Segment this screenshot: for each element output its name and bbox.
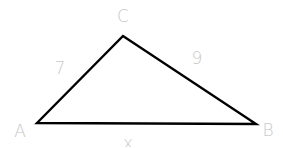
vertex-label-a: A <box>14 123 26 140</box>
triangle-outline <box>37 36 256 124</box>
side-label-cb: 9 <box>192 50 203 67</box>
side-label-ac: 7 <box>55 60 66 77</box>
vertex-label-b: B <box>262 122 273 139</box>
triangle-shape <box>0 0 283 147</box>
vertex-label-c: C <box>117 8 129 25</box>
side-label-ab: x <box>123 135 133 148</box>
triangle-diagram: A B C 7 9 x <box>0 0 283 147</box>
